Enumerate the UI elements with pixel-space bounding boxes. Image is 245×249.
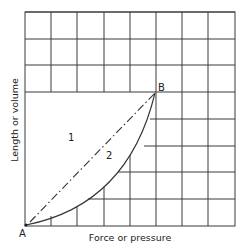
point-a-marker: [25, 224, 28, 227]
y-axis-label: Length or volume: [9, 78, 20, 162]
region-2-label: 2: [106, 150, 112, 161]
x-axis-label: Force or pressure: [89, 232, 172, 243]
pressure-volume-diagram: A B 1 2 Force or pressure Length or volu…: [0, 0, 245, 249]
curve-1-dashdot: [30, 93, 155, 222]
region-1-label: 1: [68, 132, 74, 143]
grid-upper: [25, 12, 235, 92]
grid-right: [88, 12, 235, 226]
point-b-label: B: [158, 82, 165, 93]
point-a-label: A: [19, 228, 26, 239]
